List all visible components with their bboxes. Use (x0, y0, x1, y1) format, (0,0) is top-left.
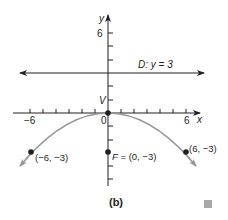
vertex-label: V (99, 95, 107, 106)
x-tick-label-6: 6 (184, 115, 190, 126)
figure-caption: (b) (104, 196, 128, 208)
x-axis-label: x (196, 114, 203, 125)
parabola-graph: y 6 x −6 0 6 D: y = 3 V F = (0, −3) (−6,… (0, 0, 228, 220)
parabola-right-arrow (188, 157, 196, 166)
end-of-example-marker (204, 200, 212, 208)
x-tick-label-0: 0 (101, 115, 107, 126)
y-axis-label: y (98, 13, 105, 24)
left-point (28, 149, 34, 155)
left-point-label: (−6, −3) (35, 152, 68, 163)
parabola-left-arrow (20, 157, 28, 166)
y-tick-label-6: 6 (97, 28, 103, 39)
focus-label: F = (0, −3) (112, 151, 156, 162)
focus-point (105, 149, 111, 155)
right-point-label: (6, −3) (189, 143, 217, 154)
x-tick-label-neg6: −6 (24, 115, 36, 126)
right-point (183, 149, 189, 155)
directrix-label: D: y = 3 (138, 59, 173, 70)
